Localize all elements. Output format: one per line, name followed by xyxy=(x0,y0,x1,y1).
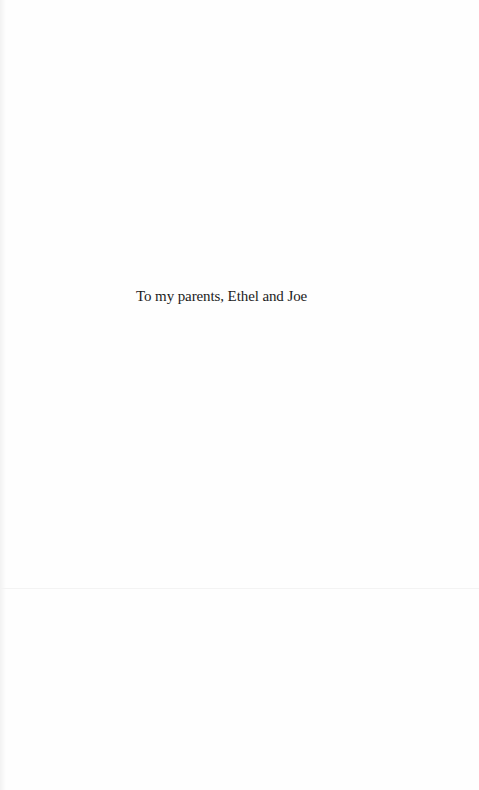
page-edge-shadow xyxy=(0,0,6,790)
book-page: To my parents, Ethel and Joe xyxy=(0,0,479,790)
scan-artifact-line xyxy=(0,588,479,589)
dedication-text: To my parents, Ethel and Joe xyxy=(136,286,307,306)
